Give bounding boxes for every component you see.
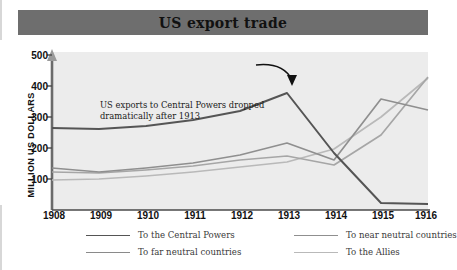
y-tick-200: 200: [22, 143, 48, 154]
y-tick-300: 300: [22, 112, 48, 123]
x-tick-1909: 1909: [90, 210, 112, 221]
chart-legend: To the Central Powers To near neutral co…: [0, 228, 441, 268]
y-tick-400: 400: [22, 81, 48, 92]
x-tick-1914: 1914: [325, 210, 347, 221]
plot-area-wrapper: MILLION US DOLLARS 500 400 300 200 100: [0, 40, 441, 225]
x-tick-1910: 1910: [137, 210, 159, 221]
legend-swatch-far-neutral: [86, 252, 130, 253]
x-tick-1911: 1911: [184, 210, 206, 221]
legend-swatch-near-neutral: [294, 235, 338, 236]
x-tick-1916: 1916: [415, 210, 437, 221]
y-axis-tick-labels: 500 400 300 200 100: [18, 40, 48, 225]
legend-item-near-neutral[interactable]: To near neutral countries: [294, 230, 457, 240]
plot-background: [52, 52, 428, 210]
legend-label-far-neutral: To far neutral countries: [138, 247, 241, 257]
x-tick-1908: 1908: [43, 210, 65, 221]
legend-item-far-neutral[interactable]: To far neutral countries: [86, 247, 241, 257]
chart-title-bar: US export trade: [18, 10, 428, 35]
page-title: US export trade: [159, 15, 287, 31]
legend-label-near-neutral: To near neutral countries: [346, 230, 457, 240]
legend-label-central-powers: To the Central Powers: [138, 230, 235, 240]
x-axis-tick-labels: 1908 1909 1910 1911 1912 1913 1914 1915 …: [0, 210, 441, 226]
line-chart-plot: [0, 40, 441, 225]
left-edge-rule-top: [0, 0, 2, 40]
x-tick-1912: 1912: [231, 210, 253, 221]
x-tick-1915: 1915: [372, 210, 394, 221]
chart-annotation-text: US exports to Central Powers dropped dra…: [100, 100, 285, 122]
legend-item-allies[interactable]: To the Allies: [294, 247, 400, 257]
legend-swatch-central-powers: [86, 235, 130, 236]
legend-swatch-allies: [294, 252, 338, 253]
y-tick-100: 100: [22, 174, 48, 185]
x-tick-1913: 1913: [278, 210, 300, 221]
legend-label-allies: To the Allies: [346, 247, 400, 257]
legend-item-central-powers[interactable]: To the Central Powers: [86, 230, 235, 240]
y-tick-500: 500: [22, 50, 48, 61]
